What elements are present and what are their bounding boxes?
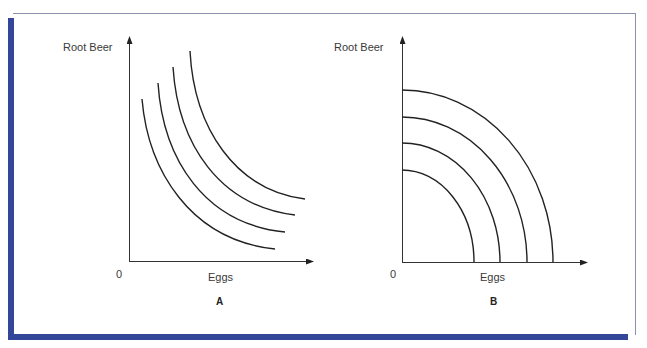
panel-b: Root Beer 0 Eggs B [334, 37, 587, 307]
panel-a: Root Beer 0 Eggs A [63, 37, 313, 307]
panel-b-x-label: Eggs [480, 271, 506, 283]
panel-b-origin-label: 0 [390, 268, 396, 280]
panel-b-arc-4 [402, 90, 553, 262]
panel-a-x-label: Eggs [208, 271, 234, 283]
panel-a-origin-label: 0 [116, 268, 122, 280]
figure-canvas: Root Beer 0 Eggs A Root Beer 0 Eggs B [0, 0, 647, 348]
panel-a-title: A [216, 296, 223, 307]
panel-a-y-label: Root Beer [63, 41, 113, 53]
panel-b-arc-1 [402, 170, 474, 262]
panel-b-arc-2 [402, 143, 500, 262]
panel-b-y-label: Root Beer [334, 41, 384, 53]
panel-b-title: B [490, 296, 497, 307]
panel-a-curve-2 [158, 83, 285, 232]
panel-a-curve-4 [190, 51, 305, 199]
